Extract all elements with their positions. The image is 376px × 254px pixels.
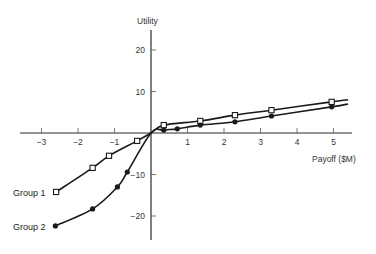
y-axis-title: Utility: [137, 16, 159, 26]
square-marker: [232, 113, 237, 118]
x-tick-label: 4: [295, 137, 300, 147]
square-marker: [135, 138, 140, 143]
dot-marker: [53, 223, 58, 228]
dot-marker: [198, 123, 203, 128]
dot-marker: [161, 127, 166, 132]
y-tick-label: 20: [136, 45, 146, 55]
y-tick-label: 10: [136, 87, 146, 97]
x-tick-label: −2: [73, 137, 83, 147]
square-marker: [269, 108, 274, 113]
dot-marker: [175, 126, 180, 131]
dot-marker: [329, 104, 334, 109]
x-tick-label: −1: [110, 137, 120, 147]
dot-marker: [90, 206, 95, 211]
x-tick-label: 5: [331, 137, 336, 147]
series-layer: [53, 99, 348, 228]
group1-label: Group 1: [13, 188, 46, 198]
x-ticks: −3−2−112345: [37, 128, 336, 147]
x-tick-label: 1: [185, 137, 190, 147]
x-axis-title: Payoff ($M): [312, 154, 356, 164]
dot-marker: [269, 113, 274, 118]
x-tick-label: 2: [222, 137, 227, 147]
dot-marker: [125, 169, 130, 174]
group2-label: Group 2: [13, 222, 46, 232]
square-marker: [106, 153, 111, 158]
series-1: [54, 99, 349, 194]
square-marker: [329, 99, 334, 104]
series-2: [53, 104, 348, 229]
square-marker: [54, 189, 59, 194]
square-marker: [161, 123, 166, 128]
series-labels: Group 1 Group 2: [13, 188, 46, 232]
y-axis: Utility 2010−10−20: [131, 16, 159, 240]
dot-marker: [115, 184, 120, 189]
dot-marker: [232, 119, 237, 124]
utility-curve-chart: Utility 2010−10−20 Payoff ($M) −3−2−1123…: [0, 0, 376, 254]
x-tick-label: −3: [37, 137, 47, 147]
y-tick-label: −10: [131, 170, 146, 180]
series-line: [56, 100, 348, 192]
x-tick-label: 3: [258, 137, 263, 147]
y-tick-label: −20: [131, 211, 146, 221]
square-marker: [90, 165, 95, 170]
x-axis: Payoff ($M) −3−2−112345: [20, 128, 356, 164]
